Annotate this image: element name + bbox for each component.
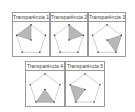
pentagon-diagram <box>13 21 49 57</box>
pentagon-diagram <box>89 21 125 57</box>
panel-2: Transparência 2 <box>50 12 88 57</box>
panel-4: Transparência 4 <box>25 61 65 107</box>
panel-5: Transparência 5 <box>65 61 105 107</box>
pentagon-diagram <box>26 70 64 107</box>
pentagon-diagram <box>66 70 104 107</box>
panel-3: Transparência 3 <box>88 12 126 57</box>
panel-1: Transparência 1 <box>12 12 50 57</box>
pentagon-diagram <box>51 21 87 57</box>
